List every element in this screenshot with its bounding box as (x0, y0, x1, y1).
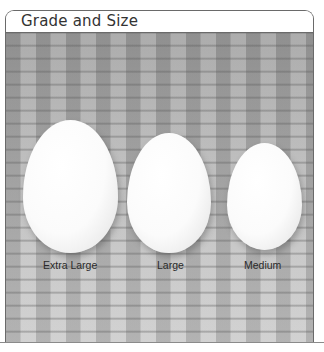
bottom-divider (0, 342, 324, 343)
egg-large (127, 133, 211, 253)
label-medium: Medium (244, 259, 281, 271)
egg-extra-large (23, 120, 118, 253)
panel-title: Grade and Size (6, 11, 313, 33)
egg-medium (227, 143, 302, 250)
eggs-photo: Extra Large Large Medium (6, 33, 313, 343)
label-large: Large (157, 259, 184, 271)
label-extra-large: Extra Large (43, 259, 97, 271)
grade-size-panel: Grade and Size Extra Large Large Medium (5, 10, 314, 343)
